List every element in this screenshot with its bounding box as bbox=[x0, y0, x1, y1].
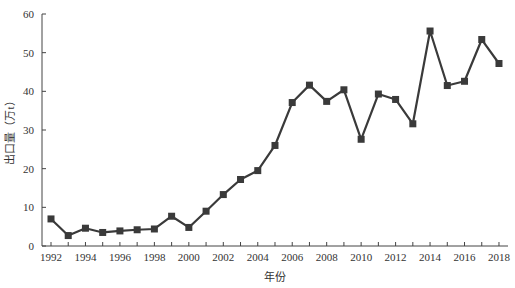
data-point-marker bbox=[203, 208, 210, 215]
data-point-marker bbox=[82, 225, 89, 232]
data-point-marker bbox=[478, 36, 485, 43]
data-point-marker bbox=[340, 86, 347, 93]
x-tick-label: 1992 bbox=[40, 251, 62, 263]
data-point-marker bbox=[495, 60, 502, 67]
y-tick-label: 10 bbox=[23, 201, 35, 213]
y-tick-label: 50 bbox=[23, 47, 35, 59]
x-tick-label: 1994 bbox=[74, 251, 97, 263]
x-tick-label: 1996 bbox=[109, 251, 132, 263]
x-tick-label: 2004 bbox=[247, 251, 270, 263]
data-point-marker bbox=[444, 82, 451, 89]
data-point-marker bbox=[409, 120, 416, 127]
x-tick-label: 2012 bbox=[385, 251, 407, 263]
data-point-marker bbox=[185, 224, 192, 231]
data-point-marker bbox=[323, 98, 330, 105]
data-point-marker bbox=[271, 142, 278, 149]
x-tick-label: 2018 bbox=[488, 251, 511, 263]
data-point-marker bbox=[134, 226, 141, 233]
x-axis-label: 年份 bbox=[264, 270, 286, 283]
data-point-marker bbox=[220, 191, 227, 198]
x-tick-label: 2008 bbox=[316, 251, 339, 263]
y-tick-label: 60 bbox=[23, 8, 35, 20]
data-point-marker bbox=[168, 213, 175, 220]
x-tick-label: 2000 bbox=[178, 251, 201, 263]
data-point-marker bbox=[289, 99, 296, 106]
data-point-marker bbox=[151, 225, 158, 232]
data-point-marker bbox=[306, 82, 313, 89]
y-tick-label: 30 bbox=[23, 124, 35, 136]
data-point-marker bbox=[461, 78, 468, 85]
x-tick-label: 2002 bbox=[212, 251, 234, 263]
data-line bbox=[51, 31, 499, 236]
data-point-marker bbox=[392, 96, 399, 103]
x-tick-label: 1998 bbox=[143, 251, 166, 263]
data-point-marker bbox=[427, 28, 434, 35]
data-point-marker bbox=[99, 229, 106, 236]
data-point-marker bbox=[254, 167, 261, 174]
data-point-marker bbox=[116, 227, 123, 234]
y-tick-label: 40 bbox=[23, 85, 35, 97]
x-tick-label: 2010 bbox=[350, 251, 373, 263]
x-tick-label: 2014 bbox=[419, 251, 442, 263]
x-tick-label: 2016 bbox=[454, 251, 477, 263]
y-tick-label: 0 bbox=[29, 240, 35, 252]
data-point-marker bbox=[48, 215, 55, 222]
y-axis-label: 出口量（万t） bbox=[3, 95, 16, 164]
line-chart: 0102030405060199219941996199820002002200… bbox=[0, 0, 515, 288]
data-point-marker bbox=[375, 91, 382, 98]
data-point-marker bbox=[237, 176, 244, 183]
data-point-marker bbox=[65, 232, 72, 239]
x-tick-label: 2006 bbox=[281, 251, 304, 263]
y-tick-label: 20 bbox=[23, 163, 35, 175]
data-point-marker bbox=[358, 136, 365, 143]
